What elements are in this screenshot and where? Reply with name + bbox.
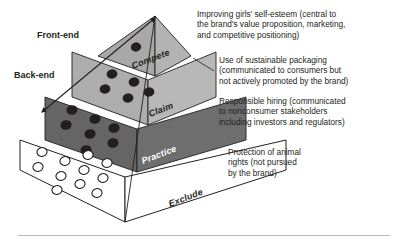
annotation-exclude: Protection of animal rights (not pursued… — [228, 147, 348, 178]
annotation-claim: Use of sustainable packaging (communicat… — [219, 55, 405, 86]
axis-label-back-end: Back-end — [14, 70, 55, 80]
annotation-practice: Responsible hiring (communicated to nonc… — [219, 96, 407, 127]
axis-label-front-end: Front-end — [37, 30, 79, 40]
annotation-compete: Improving girls' self-esteem (central to… — [197, 9, 405, 40]
pyramid-figure: Compete Claim Practice Exclude Front-end… — [0, 0, 407, 245]
bottom-divider — [18, 235, 390, 236]
